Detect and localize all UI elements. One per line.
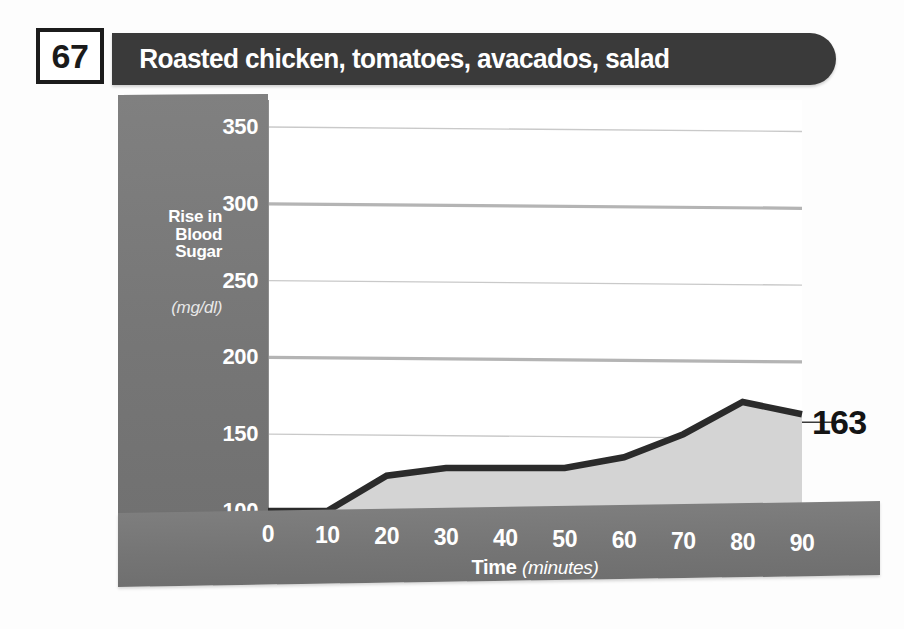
x-axis-tick-90: 90: [774, 532, 830, 555]
y-axis-tick-200: 200: [186, 346, 258, 368]
chart-title: Roasted chicken, tomatoes, avacados, sal…: [112, 44, 669, 75]
x-axis-tick-50: 50: [537, 528, 593, 551]
x-axis-tick-60: 60: [596, 529, 652, 552]
chart-title-bar: Roasted chicken, tomatoes, avacados, sal…: [112, 33, 836, 85]
x-axis-tick-10: 10: [299, 524, 355, 547]
chart-page: 67 Roasted chicken, tomatoes, avacados, …: [0, 0, 904, 629]
y-axis-tick-250: 250: [186, 270, 258, 292]
y-axis-title-line-2: Blood: [126, 226, 222, 244]
x-axis-tick-labels: 0102030405060708090: [118, 505, 880, 545]
y-axis-tick-300: 300: [186, 193, 258, 215]
x-axis-tick-0: 0: [240, 523, 296, 546]
y-axis-title-line-3: Sugar: [126, 243, 222, 261]
x-axis-tick-40: 40: [477, 527, 533, 550]
x-axis-tick-20: 20: [359, 525, 415, 548]
page-number-box: 67: [36, 28, 104, 84]
line-chart-svg: [268, 100, 802, 518]
y-axis-units: (mg/dl): [126, 298, 222, 318]
y-axis-tick-350: 350: [186, 116, 258, 138]
x-axis-units: (minutes): [522, 557, 598, 578]
x-axis-tick-70: 70: [655, 530, 711, 553]
y-axis-title: Rise in Blood Sugar: [126, 208, 222, 261]
end-value-label: 163: [812, 405, 866, 439]
x-axis-tick-80: 80: [715, 531, 771, 554]
x-axis-title-text: Time: [472, 556, 517, 578]
plot-area: [268, 100, 802, 518]
x-axis-tick-30: 30: [418, 526, 474, 549]
y-axis-tick-150: 150: [186, 423, 258, 445]
x-axis-title: Time (minutes): [268, 556, 802, 579]
page-number: 67: [52, 39, 89, 73]
